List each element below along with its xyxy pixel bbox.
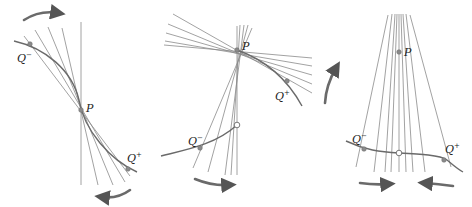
label-q-plus: Q+ <box>275 89 290 103</box>
secant-line <box>403 14 413 172</box>
point-q-minus <box>362 147 367 152</box>
point-q-minus <box>28 42 33 47</box>
point-q-plus <box>126 167 131 172</box>
point-q-plus <box>442 158 447 163</box>
point-p <box>235 48 240 53</box>
label-q-plus: Q+ <box>127 151 142 165</box>
point-q-minus <box>198 146 203 151</box>
arrow-icon <box>24 12 58 20</box>
curve <box>14 41 137 172</box>
point-q-plus <box>285 79 290 84</box>
panel-1: P Q− Q+ <box>14 12 142 197</box>
secant-line <box>391 14 397 172</box>
label-q-minus: Q− <box>17 51 32 65</box>
point-p <box>397 50 402 55</box>
secant-line <box>401 14 406 172</box>
arrow-icon <box>102 190 130 197</box>
label-p: P <box>241 40 250 53</box>
secant-tangent-diagram: P Q− Q+ P Q+ Q− <box>0 0 472 207</box>
secant-line <box>173 14 312 93</box>
panel-3: P Q− Q+ <box>346 14 463 186</box>
arrow-icon <box>360 183 388 184</box>
secant-line <box>24 36 130 176</box>
label-p: P <box>403 46 412 59</box>
arrow-icon <box>325 68 336 103</box>
arrow-icon <box>425 183 453 186</box>
secant-line <box>406 14 425 172</box>
open-point <box>396 150 402 156</box>
label-p: P <box>85 102 94 115</box>
label-q-minus: Q− <box>352 132 367 146</box>
secant-line <box>385 14 395 172</box>
open-point <box>234 122 240 128</box>
label-q-plus: Q+ <box>445 142 460 156</box>
arrow-icon <box>195 179 229 185</box>
panel-2: P Q+ Q− <box>161 14 336 185</box>
point-p <box>79 108 84 113</box>
